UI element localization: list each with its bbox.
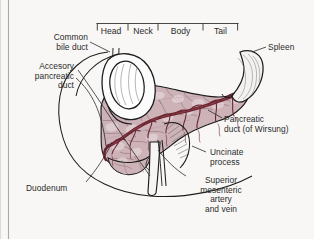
label-common-bile-duct: Common bile duct <box>34 33 88 52</box>
label-duodenum: Duodenum <box>26 184 84 194</box>
pancreas-anatomy-figure: Pancreas <box>0 0 314 239</box>
label-uncinate-process: Uncinate process <box>210 148 272 167</box>
segment-label-tail: Tail <box>203 27 238 37</box>
label-accessory-pancreatic-duct: Accesory pancreatic duct <box>12 62 74 91</box>
segment-label-head: Head <box>96 27 126 37</box>
label-superior-mesenteric-vessels: Superior mesenteric artery and vein <box>184 176 258 214</box>
label-pancreatic-duct-of-wirsung: Pancreatic duct (of Wirsung) <box>224 115 314 134</box>
segment-label-neck: Neck <box>128 27 158 37</box>
label-spleen: Spleen <box>268 43 312 53</box>
segment-label-body: Body <box>158 27 203 37</box>
